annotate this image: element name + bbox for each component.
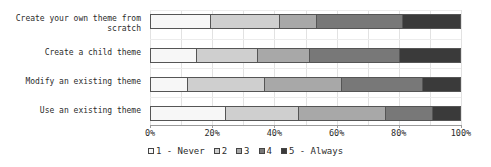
- gridline-horizontal: [150, 97, 461, 98]
- x-tick-label: 100%: [441, 128, 481, 138]
- bar-segment: [151, 49, 197, 62]
- legend-swatch-icon: [214, 148, 220, 154]
- bar-segment: [188, 78, 265, 91]
- category-label-1: Create a child theme: [0, 48, 141, 58]
- legend-label: 4: [267, 146, 272, 156]
- legend-label: 2: [222, 146, 227, 156]
- bar-row: [150, 14, 461, 29]
- legend-item[interactable]: 3: [236, 146, 249, 156]
- bar-segment: [433, 107, 460, 120]
- x-tick-label: 40%: [254, 128, 294, 138]
- legend-swatch-icon: [148, 148, 154, 154]
- category-label-0: Create your own theme from scratch: [0, 14, 141, 33]
- bar-segment: [386, 107, 434, 120]
- bar-segment: [317, 15, 403, 28]
- category-label-2: Modify an existing theme: [0, 77, 141, 87]
- legend-label: 3: [244, 146, 249, 156]
- bar-segment: [211, 15, 280, 28]
- category-axis: Create your own theme from scratch Creat…: [0, 0, 145, 130]
- x-axis-line: [150, 125, 462, 126]
- bar-segment: [265, 78, 342, 91]
- legend-item[interactable]: 4: [259, 146, 272, 156]
- bar-segment: [310, 49, 400, 62]
- legend-item[interactable]: 5 - Always: [281, 146, 343, 156]
- x-tick-label: 60%: [317, 128, 357, 138]
- legend-item[interactable]: 1 - Never: [148, 146, 205, 156]
- legend-label: 1 - Never: [156, 146, 205, 156]
- legend: 1 - Never2345 - Always: [0, 146, 491, 156]
- x-tick-label: 20%: [192, 128, 232, 138]
- legend-label: 5 - Always: [289, 146, 343, 156]
- bar-segment: [151, 78, 188, 91]
- bar-segment: [403, 15, 460, 28]
- bar-segment: [226, 107, 299, 120]
- bar-segment: [342, 78, 423, 91]
- gridline-horizontal: [150, 10, 461, 11]
- legend-swatch-icon: [259, 148, 265, 154]
- bar-row: [150, 106, 461, 121]
- gridline-vertical: [461, 10, 462, 125]
- category-label-3: Use an existing theme: [0, 106, 141, 116]
- bar-row: [150, 48, 461, 63]
- bar-segment: [299, 107, 385, 120]
- bar-segment: [400, 49, 460, 62]
- bar-row: [150, 77, 461, 92]
- x-tick-label: 80%: [379, 128, 419, 138]
- legend-swatch-icon: [281, 148, 287, 154]
- bar-segment: [258, 49, 310, 62]
- bar-segment: [151, 107, 226, 120]
- bar-segment: [197, 49, 258, 62]
- bar-segment: [423, 78, 460, 91]
- bar-segment: [151, 15, 211, 28]
- gridline-horizontal: [150, 39, 461, 40]
- legend-swatch-icon: [236, 148, 242, 154]
- x-tick-label: 0%: [130, 128, 170, 138]
- stacked-bar-chart: Create your own theme from scratch Creat…: [0, 0, 491, 167]
- legend-item[interactable]: 2: [214, 146, 227, 156]
- bar-segment: [280, 15, 317, 28]
- plot-area: [150, 10, 461, 125]
- gridline-horizontal: [150, 68, 461, 69]
